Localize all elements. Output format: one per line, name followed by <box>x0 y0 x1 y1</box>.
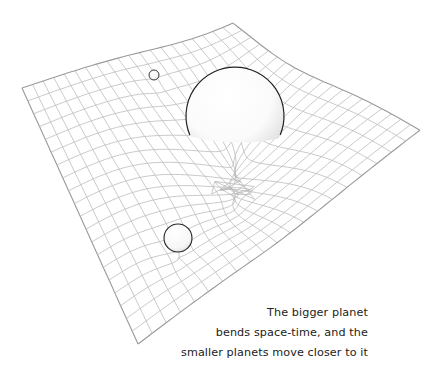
caption-line-2: bends space-time, and the <box>181 323 368 343</box>
grid-line <box>54 78 181 313</box>
caption-line-3: smaller planets move closer to it <box>181 343 368 363</box>
grid-border <box>22 23 233 88</box>
caption: The bigger planet bends space-time, and … <box>181 303 368 363</box>
caption-line-1: The bigger planet <box>181 303 368 323</box>
small-planet-top <box>149 70 159 80</box>
small-planet-bottom <box>164 224 192 252</box>
